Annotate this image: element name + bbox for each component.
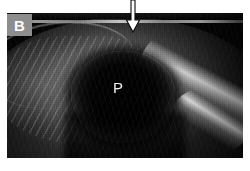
posterior-shadow-band (64, 112, 187, 158)
standoff-band (7, 13, 243, 19)
panel-label-badge: B (7, 14, 32, 36)
structure-marker-p: P (113, 80, 123, 95)
ultrasound-image (7, 13, 243, 158)
skin-interface-line (7, 20, 243, 23)
panel-label-text: B (14, 18, 25, 33)
figure-panel: B P (0, 0, 250, 171)
